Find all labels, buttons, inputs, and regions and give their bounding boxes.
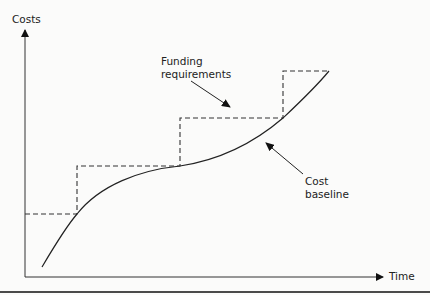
x-axis-label: Time [389, 270, 415, 283]
funding-requirements-step-line [25, 71, 329, 214]
cost-baseline-label: Cost baseline [305, 175, 349, 201]
funding-label-line1: Funding [161, 55, 231, 68]
funding-callout-arrow [191, 81, 230, 107]
cost-baseline-diagram [0, 0, 430, 295]
y-axis-label: Costs [12, 13, 41, 26]
funding-requirements-label: Funding requirements [161, 55, 231, 81]
baseline-label-line2: baseline [305, 188, 349, 201]
cost-baseline-curve [42, 71, 329, 267]
baseline-label-line1: Cost [305, 175, 349, 188]
baseline-callout-arrow [266, 143, 303, 174]
funding-label-line2: requirements [161, 68, 231, 81]
